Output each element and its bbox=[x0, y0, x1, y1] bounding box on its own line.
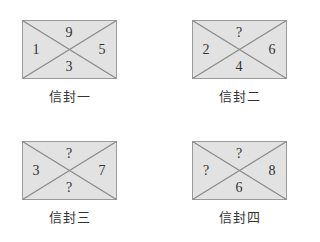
top-number: ? bbox=[232, 147, 246, 161]
envelope-4: ? ? 8 6 bbox=[192, 141, 287, 200]
left-number: ? bbox=[199, 164, 213, 178]
envelope-2: ? 2 6 4 bbox=[192, 20, 287, 79]
bottom-number: 4 bbox=[232, 60, 246, 74]
right-number: 8 bbox=[265, 164, 279, 178]
bottom-number: ? bbox=[62, 181, 76, 195]
envelope-4-label: 信封四 bbox=[192, 207, 287, 226]
envelope-3-label: 信封三 bbox=[22, 207, 117, 226]
envelope-1: 9 1 5 3 bbox=[22, 20, 117, 79]
top-number: ? bbox=[232, 26, 246, 40]
bottom-number: 3 bbox=[62, 60, 76, 74]
envelope-3: ? 3 7 ? bbox=[22, 141, 117, 200]
right-number: 5 bbox=[95, 43, 109, 57]
top-number: 9 bbox=[62, 26, 76, 40]
envelope-2-label: 信封二 bbox=[192, 86, 287, 105]
right-number: 7 bbox=[95, 164, 109, 178]
envelope-1-label: 信封一 bbox=[22, 86, 117, 105]
bottom-number: 6 bbox=[232, 181, 246, 195]
left-number: 3 bbox=[29, 164, 43, 178]
left-number: 1 bbox=[29, 43, 43, 57]
right-number: 6 bbox=[265, 43, 279, 57]
left-number: 2 bbox=[199, 43, 213, 57]
top-number: ? bbox=[62, 147, 76, 161]
